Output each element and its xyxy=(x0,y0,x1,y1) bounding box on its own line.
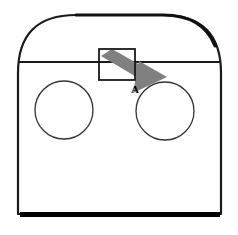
callout-label-a: A xyxy=(131,83,139,95)
figure-root: A xyxy=(0,0,238,235)
right-circle xyxy=(136,82,194,140)
technical-drawing-canvas: A xyxy=(0,0,238,235)
left-circle xyxy=(35,81,93,139)
base-shadow-bar xyxy=(20,212,220,217)
